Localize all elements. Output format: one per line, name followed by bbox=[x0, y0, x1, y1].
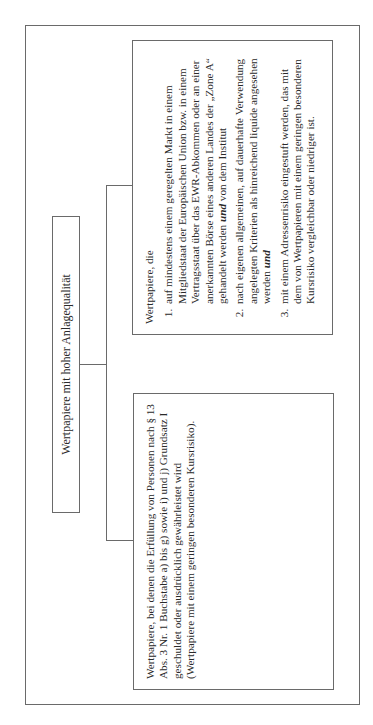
criteria-list: auf mindestens einem geregelten Markt in… bbox=[162, 51, 317, 324]
connector-drop-left bbox=[106, 540, 133, 541]
category-box-guaranteed: Wertpapiere, bei denen die Erfüllung von… bbox=[133, 393, 334, 690]
criteria-item: mit einem Adressenrisiko eingestuft werd… bbox=[278, 51, 318, 306]
criteria-item: auf mindestens einem geregelten Markt in… bbox=[162, 51, 229, 306]
diagram-title-box: Wertpapiere mit hoher Anlagequalität bbox=[52, 216, 80, 513]
criteria-text: von dem Institut bbox=[216, 128, 228, 204]
connector-drop-right bbox=[106, 185, 132, 186]
diagram-title: Wertpapiere mit hoher Anlagequalität bbox=[59, 274, 74, 455]
connector-bar bbox=[106, 185, 107, 541]
criteria-emphasis: und bbox=[216, 204, 228, 222]
category-text: Wertpapiere, bei denen die Erfüllung von… bbox=[144, 404, 196, 679]
rotated-page: Wertpapiere mit hoher Anlagequalität Wer… bbox=[0, 0, 373, 725]
category-box-traded: Wertpapiere, die auf mindestens einem ge… bbox=[132, 40, 333, 335]
criteria-item: nach eigenen allgemeinen, auf dauerhafte… bbox=[233, 51, 273, 306]
criteria-emphasis: und bbox=[260, 250, 272, 268]
connector-stem bbox=[80, 364, 106, 365]
criteria-text: mit einem Adressenrisiko eingestuft werd… bbox=[278, 59, 317, 304]
category-intro: Wertpapiere, die bbox=[143, 51, 156, 324]
